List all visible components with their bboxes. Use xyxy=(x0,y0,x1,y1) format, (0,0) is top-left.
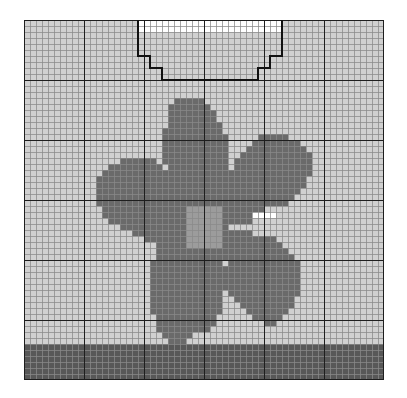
knitting-chart-grid xyxy=(24,20,384,380)
neckline-outline xyxy=(24,20,384,380)
neckline-stepped-line xyxy=(138,20,282,80)
